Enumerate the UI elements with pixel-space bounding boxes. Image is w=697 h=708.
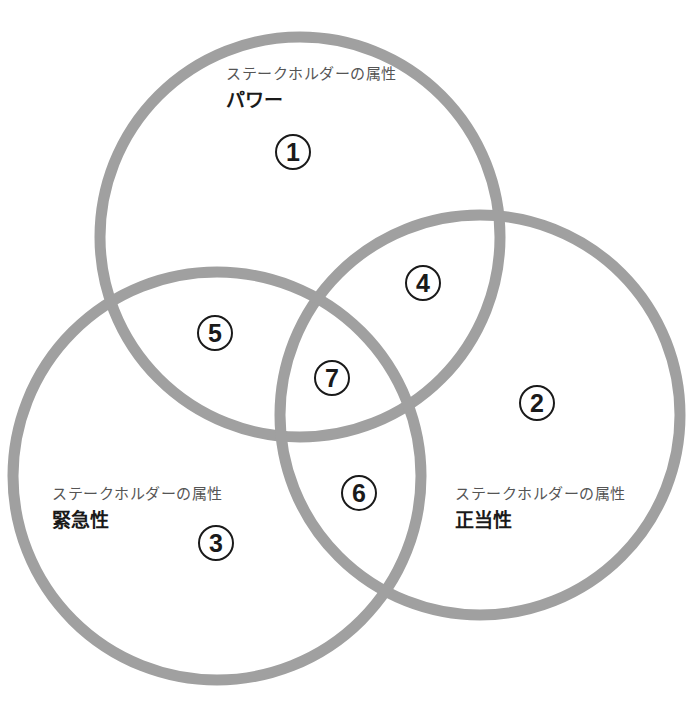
- attribute-name-legitimacy: 正当性: [455, 507, 626, 533]
- region-number-5: 5: [197, 315, 233, 351]
- attribute-label-power: ステークホルダーの属性 パワー: [226, 65, 397, 113]
- region-number-1: 1: [275, 134, 311, 170]
- region-number-7: 7: [314, 360, 350, 396]
- attribute-caption: ステークホルダーの属性: [226, 65, 397, 83]
- region-number-3: 3: [198, 525, 234, 561]
- attribute-name-power: パワー: [226, 87, 397, 113]
- circle-legitimacy: [280, 215, 680, 615]
- region-number-6: 6: [341, 475, 377, 511]
- attribute-label-legitimacy: ステークホルダーの属性 正当性: [455, 485, 626, 533]
- region-number-2: 2: [519, 385, 555, 421]
- attribute-label-urgency: ステークホルダーの属性 緊急性: [52, 485, 223, 533]
- region-number-4: 4: [405, 265, 441, 301]
- attribute-name-urgency: 緊急性: [52, 507, 223, 533]
- attribute-caption: ステークホルダーの属性: [455, 485, 626, 503]
- attribute-caption: ステークホルダーの属性: [52, 485, 223, 503]
